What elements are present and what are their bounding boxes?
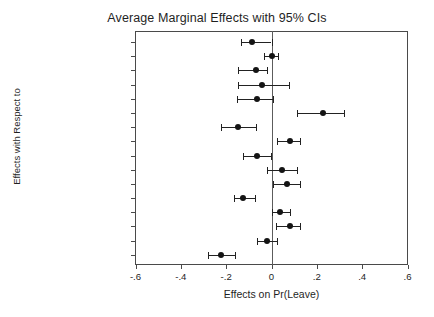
- data-point-marker: [259, 82, 265, 88]
- ci-cap-upper: [290, 209, 291, 216]
- x-axis-tick-label: -.6: [121, 271, 151, 282]
- x-axis-tick-label: .4: [347, 271, 377, 282]
- x-axis-tick-label: .2: [302, 271, 332, 282]
- y-axis-tick-mark: [131, 241, 135, 242]
- ci-cap-lower: [297, 110, 298, 117]
- x-axis-tick-label: -.4: [166, 271, 196, 282]
- ci-cap-upper: [256, 124, 257, 131]
- ci-cap-lower: [276, 223, 277, 230]
- ci-cap-upper: [300, 138, 301, 145]
- data-point-marker: [284, 181, 290, 187]
- y-axis-tick-mark: [131, 141, 135, 142]
- ci-cap-upper: [273, 96, 274, 103]
- x-axis-tick-mark: [362, 265, 363, 269]
- y-axis-tick-mark: [131, 85, 135, 86]
- data-point-marker: [287, 138, 293, 144]
- y-axis-label: Effects with Respect to: [11, 57, 22, 217]
- data-point-marker: [254, 96, 260, 102]
- x-axis-label: Effects on Pr(Leave): [135, 288, 408, 300]
- y-axis-tick-mark: [131, 42, 135, 43]
- ci-cap-upper: [300, 181, 301, 188]
- x-axis-tick-mark: [317, 265, 318, 269]
- y-axis-tick-mark: [131, 70, 135, 71]
- y-axis-tick-mark: [131, 198, 135, 199]
- data-point-marker: [320, 110, 326, 116]
- ci-cap-lower: [273, 181, 274, 188]
- data-point-marker: [253, 67, 259, 73]
- x-axis-tick-mark: [136, 265, 137, 269]
- y-axis-tick-mark: [131, 184, 135, 185]
- confidence-interval-line: [241, 42, 271, 43]
- x-axis-tick-mark: [408, 265, 409, 269]
- y-axis-tick-mark: [131, 212, 135, 213]
- ci-cap-upper: [272, 39, 273, 46]
- ci-cap-lower: [237, 96, 238, 103]
- ci-cap-upper: [297, 167, 298, 174]
- data-point-marker: [269, 53, 275, 59]
- x-axis-tick-mark: [272, 265, 273, 269]
- ci-cap-lower: [221, 124, 222, 131]
- x-axis-tick-mark: [226, 265, 227, 269]
- x-axis-tick-label: -.2: [211, 271, 241, 282]
- ci-cap-lower: [243, 153, 244, 160]
- y-axis-tick-mark: [131, 113, 135, 114]
- ci-cap-upper: [300, 223, 301, 230]
- data-point-marker: [235, 124, 241, 130]
- ci-cap-upper: [235, 252, 236, 259]
- zero-reference-line: [272, 31, 273, 265]
- ci-cap-lower: [257, 238, 258, 245]
- ci-cap-upper: [344, 110, 345, 117]
- y-axis-tick-mark: [131, 99, 135, 100]
- chart-title: Average Marginal Effects with 95% CIs: [0, 11, 434, 25]
- ci-cap-upper: [277, 238, 278, 245]
- x-axis-tick-label: .6: [393, 271, 423, 282]
- y-axis-tick-mark: [131, 56, 135, 57]
- ci-cap-lower: [234, 195, 235, 202]
- ci-cap-upper: [289, 82, 290, 89]
- y-axis-tick-mark: [131, 226, 135, 227]
- ci-cap-lower: [264, 53, 265, 60]
- y-axis-tick-mark: [131, 170, 135, 171]
- x-axis-tick-label: 0: [257, 271, 287, 282]
- ci-cap-lower: [267, 167, 268, 174]
- ci-cap-upper: [278, 53, 279, 60]
- data-point-marker: [287, 223, 293, 229]
- ci-cap-upper: [267, 67, 268, 74]
- chart-figure: Average Marginal Effects with 95% CIs Ef…: [0, 0, 434, 317]
- y-axis-tick-mark: [131, 127, 135, 128]
- ci-cap-lower: [238, 67, 239, 74]
- ci-cap-lower: [241, 39, 242, 46]
- data-point-marker: [249, 39, 255, 45]
- ci-cap-upper: [271, 153, 272, 160]
- ci-cap-lower: [238, 82, 239, 89]
- ci-cap-lower: [277, 138, 278, 145]
- y-axis-tick-mark: [131, 255, 135, 256]
- ci-cap-upper: [255, 195, 256, 202]
- ci-cap-lower: [272, 209, 273, 216]
- x-axis-tick-mark: [181, 265, 182, 269]
- ci-cap-lower: [208, 252, 209, 259]
- y-axis-tick-mark: [131, 156, 135, 157]
- data-point-marker: [218, 252, 224, 258]
